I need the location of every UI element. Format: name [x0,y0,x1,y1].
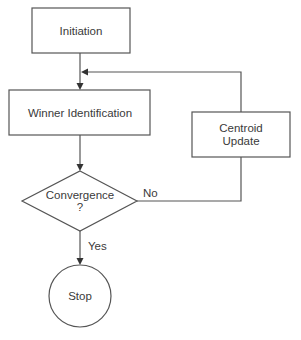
arrowhead-down-icon [77,164,84,171]
flowchart-canvas: Initiation Winner Identification Centroi… [0,0,301,340]
arrowhead-down-icon [77,258,84,265]
node-convergence: Convergence ? [22,171,137,231]
node-centroid-update: Centroid Update [192,112,290,157]
edge-label-yes: Yes [88,240,107,252]
centroid-update-label-line2: Update [222,135,259,147]
winner-identification-label: Winner Identification [28,107,132,119]
arrowhead-left-icon [81,69,88,76]
convergence-label-line2: ? [77,201,83,213]
node-winner-identification: Winner Identification [9,90,150,135]
centroid-update-label-line1: Centroid [219,122,262,134]
initiation-label: Initiation [60,25,103,37]
arrowhead-down-icon [77,83,84,90]
stop-label: Stop [68,290,92,302]
edges [77,53,242,265]
node-stop: Stop [49,265,111,327]
edge-label-no: No [143,187,158,199]
node-initiation: Initiation [32,8,130,53]
convergence-label-line1: Convergence [46,189,114,201]
